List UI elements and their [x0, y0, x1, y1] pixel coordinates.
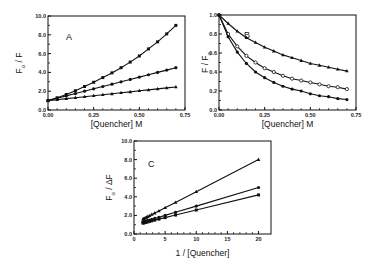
x-tick-label: 0	[132, 236, 135, 242]
y-tick-label: 8.0	[38, 32, 46, 38]
data-point-circle	[300, 89, 303, 92]
data-point-circle	[195, 205, 198, 208]
data-point-circle	[345, 98, 348, 101]
data-point-square	[164, 216, 167, 219]
panel-label: A	[66, 32, 72, 42]
data-point-square	[83, 85, 86, 88]
panel-label: C	[148, 159, 155, 169]
x-tick-label: 0.00	[43, 112, 54, 118]
data-point-circle	[129, 78, 132, 81]
data-point-open-circle	[327, 85, 330, 88]
data-point-triangle	[257, 158, 261, 161]
x-tick-label: 20	[255, 236, 261, 242]
x-tick-label: 0.25	[88, 112, 99, 118]
data-point-square	[165, 32, 168, 35]
x-axis-label: [Quencher] M	[262, 119, 314, 129]
data-point-square	[129, 61, 132, 64]
y-axis-label: F / Fo	[200, 51, 212, 72]
data-point-circle	[290, 88, 293, 91]
data-point-open-circle	[263, 67, 266, 70]
x-tick-label: 0.25	[259, 112, 270, 118]
data-point-circle	[263, 76, 266, 79]
x-tick-label: 5	[164, 236, 167, 242]
data-point-square	[150, 219, 153, 222]
data-point-circle	[165, 68, 168, 71]
x-tick-label: 0.00	[214, 112, 225, 118]
x-tick-label: 15	[224, 236, 230, 242]
y-tick-label: 0.4	[209, 69, 218, 75]
data-point-circle	[174, 211, 177, 214]
y-tick-label: 10.0	[35, 13, 46, 19]
data-point-square	[195, 209, 198, 212]
data-point-circle	[74, 92, 77, 95]
y-label-tail: / F	[14, 53, 24, 65]
data-point-circle	[83, 90, 86, 93]
data-point-circle	[257, 186, 260, 189]
data-point-circle	[92, 87, 95, 90]
x-tick-label: 0.50	[305, 112, 316, 118]
data-point-circle	[272, 81, 275, 84]
data-point-circle	[156, 71, 159, 74]
y-tick-label: 0.8	[209, 31, 217, 37]
data-point-circle	[318, 94, 321, 97]
data-point-circle	[336, 97, 339, 100]
panel-c: 0.02.04.06.08.010.005101520C1 / [Quenche…	[104, 138, 271, 258]
y-tick-label: 0.0	[124, 231, 132, 237]
data-point-circle	[281, 85, 284, 88]
data-point-circle	[327, 95, 330, 98]
y-tick-label: 0.2	[209, 88, 217, 94]
data-point-open-circle	[290, 77, 293, 80]
y-tick-label: 2.0	[124, 212, 132, 218]
plot-frame	[219, 15, 356, 110]
data-point-circle	[110, 83, 113, 86]
panel-a: 0.02.04.06.08.010.00.000.250.500.75A[Que…	[14, 13, 190, 129]
x-axis-label: [Quencher] M	[91, 119, 143, 129]
data-point-square	[174, 24, 177, 27]
data-point-circle	[236, 50, 239, 53]
data-point-square	[257, 193, 260, 196]
data-point-square	[120, 66, 123, 69]
y-tick-label: 4.0	[124, 194, 132, 200]
data-point-square	[74, 89, 77, 92]
data-point-open-circle	[281, 74, 284, 77]
data-point-circle	[101, 85, 104, 88]
data-point-open-circle	[272, 70, 275, 73]
data-point-circle	[147, 73, 150, 76]
y-tick-label: 2.0	[38, 88, 46, 94]
data-point-circle	[254, 70, 257, 73]
y-tick-label: 10.0	[121, 138, 132, 144]
data-point-open-circle	[309, 81, 312, 84]
y-label-tail: / ΔF	[104, 174, 114, 192]
data-point-square	[110, 71, 113, 74]
data-point-open-circle	[336, 86, 339, 89]
y-tick-label: 6.0	[124, 175, 132, 181]
data-point-circle	[119, 80, 122, 83]
data-point-open-circle	[318, 83, 321, 86]
y-tick-label: 6.0	[38, 51, 46, 57]
series-line	[219, 15, 347, 71]
y-label-main: F / F	[200, 55, 210, 72]
y-axis-label: Fo / F	[14, 53, 26, 74]
data-point-circle	[309, 92, 312, 95]
x-tick-label: 0.75	[351, 112, 362, 118]
y-tick-label: 1.0	[209, 12, 217, 18]
data-point-square	[174, 214, 177, 217]
data-point-square	[101, 76, 104, 79]
data-point-open-circle	[345, 88, 348, 91]
data-point-square	[138, 54, 141, 57]
x-axis-label: 1 / [Quencher]	[176, 248, 230, 258]
data-point-square	[92, 81, 95, 84]
data-point-open-circle	[254, 61, 257, 64]
y-tick-label: 8.0	[124, 157, 132, 163]
data-point-open-circle	[245, 54, 248, 57]
y-tick-label: 4.0	[38, 69, 46, 75]
x-tick-label: 0.75	[180, 112, 191, 118]
data-point-circle	[138, 76, 141, 79]
data-point-square	[156, 40, 159, 43]
figure: 0.02.04.06.08.010.00.000.250.500.75A[Que…	[0, 0, 377, 271]
series-line	[143, 160, 259, 220]
x-tick-label: 0.50	[134, 112, 145, 118]
data-point-circle	[245, 62, 248, 65]
panel-b: 0.00.20.40.60.81.00.000.250.500.75B[Quen…	[200, 12, 361, 129]
y-axis-label: Fo / ΔF	[104, 174, 116, 201]
